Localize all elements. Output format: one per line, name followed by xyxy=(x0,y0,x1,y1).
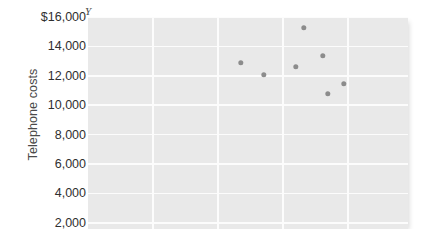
y-axis-tick-label: 14,000 xyxy=(0,40,86,53)
y-axis-tick-label: 12,000 xyxy=(0,70,86,83)
y-axis-tick-label: 10,000 xyxy=(0,99,86,112)
data-point xyxy=(238,60,243,65)
y-axis-tick-labels: $16,00014,00012,00010,0008,0006,0004,000… xyxy=(0,0,86,229)
plot-canvas xyxy=(88,17,408,229)
horizontal-gridline xyxy=(88,222,408,224)
data-point xyxy=(261,72,266,77)
vertical-gridline xyxy=(152,17,154,229)
data-point xyxy=(325,91,330,96)
horizontal-gridline xyxy=(88,193,408,195)
horizontal-gridline xyxy=(88,17,408,18)
plot-area xyxy=(88,17,408,229)
y-axis-tick-label: 2,000 xyxy=(0,217,86,229)
data-point xyxy=(341,81,346,86)
vertical-gridline xyxy=(282,17,284,229)
scatter-chart: Telephone costs $16,00014,00012,00010,00… xyxy=(0,0,448,229)
horizontal-gridline xyxy=(88,75,408,77)
horizontal-gridline xyxy=(88,134,408,136)
vertical-gridline xyxy=(217,17,219,229)
y-axis-tick-label: 6,000 xyxy=(0,158,86,171)
data-point xyxy=(301,25,306,30)
data-point xyxy=(320,53,325,58)
horizontal-gridline xyxy=(88,163,408,165)
y-axis-marker-label: Y xyxy=(85,6,91,17)
data-point xyxy=(293,64,298,69)
y-axis-tick-label: 8,000 xyxy=(0,128,86,141)
horizontal-gridline xyxy=(88,46,408,48)
y-axis-tick-label: 4,000 xyxy=(0,187,86,200)
vertical-gridline xyxy=(347,17,349,229)
horizontal-gridline xyxy=(88,104,408,106)
y-axis-tick-label: $16,000 xyxy=(0,11,86,24)
